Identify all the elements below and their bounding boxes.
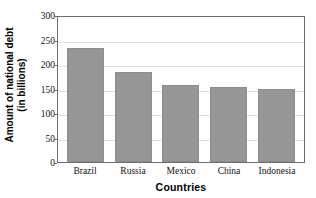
- y-axis-tick-label: 200: [31, 60, 55, 70]
- y-axis-tick-label: 100: [31, 109, 55, 119]
- x-axis-tick-labels: BrazilRussiaMexicoChinaIndonesia: [57, 165, 305, 179]
- x-axis-tick-label: China: [206, 165, 253, 179]
- y-axis-tick-labels: 300250200150100500: [29, 0, 55, 198]
- bar: [258, 89, 295, 162]
- y-axis-title: Amount of national debt (in billions): [0, 0, 30, 170]
- bar: [67, 48, 104, 162]
- y-axis-title-text: Amount of national debt (in billions): [4, 28, 27, 143]
- bar: [210, 87, 247, 162]
- x-axis-tick-label: Indonesia: [254, 165, 301, 179]
- y-axis-title-line-1: Amount of national debt: [4, 28, 15, 143]
- y-axis-tick-label: 0: [31, 158, 55, 168]
- plot-area: [57, 16, 305, 163]
- y-axis-tick-label: 50: [31, 134, 55, 144]
- x-axis-tick-label: Brazil: [62, 165, 109, 179]
- x-axis-tick-label: Mexico: [158, 165, 205, 179]
- bar: [115, 72, 152, 162]
- x-axis-title: Countries: [57, 181, 305, 193]
- y-axis-tick-label: 300: [31, 11, 55, 21]
- bar: [162, 85, 199, 162]
- bar-chart-figure: Amount of national debt (in billions) 30…: [0, 0, 316, 198]
- y-axis-tick-label: 250: [31, 36, 55, 46]
- x-axis-tick-label: Russia: [110, 165, 157, 179]
- y-axis-tick-label: 150: [31, 85, 55, 95]
- y-axis-tick-mark: [54, 163, 57, 164]
- bar-series: [58, 17, 304, 162]
- y-axis-title-line-2: (in billions): [15, 28, 27, 143]
